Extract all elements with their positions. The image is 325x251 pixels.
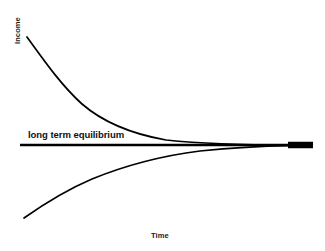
x-axis-label: Time <box>151 231 169 240</box>
equilibrium-annotation-label: long term equilibrium <box>28 129 124 140</box>
lower-convergence-curve <box>24 146 290 218</box>
y-axis-label: Income <box>13 17 22 44</box>
economics-convergence-diagram: Income long term equilibrium Time <box>0 0 325 251</box>
plot-canvas <box>0 0 325 251</box>
